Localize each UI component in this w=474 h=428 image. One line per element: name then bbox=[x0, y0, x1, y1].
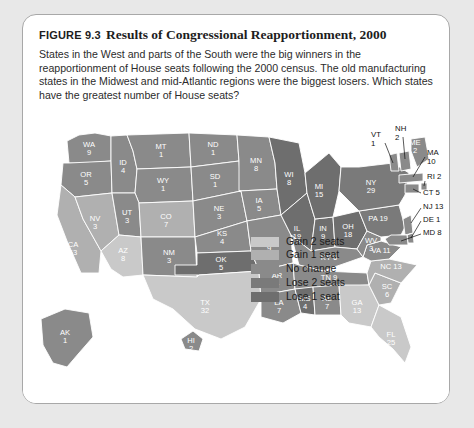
state-label-pa: PA 19 bbox=[368, 214, 388, 223]
figure-title: Results of Congressional Reapportionment… bbox=[106, 27, 387, 42]
page-title: FIGURE 9.3Results of Congressional Reapp… bbox=[39, 27, 433, 43]
state-label-hi: HI2 bbox=[187, 336, 195, 353]
figure-header: FIGURE 9.3Results of Congressional Reapp… bbox=[23, 15, 449, 102]
legend-label: Lose 1 seat bbox=[286, 292, 340, 302]
leader-line-vt bbox=[385, 143, 393, 163]
state-seats: 4 bbox=[220, 237, 224, 246]
state-label-va: VA 11 bbox=[371, 246, 390, 255]
legend-label: No change bbox=[286, 264, 336, 274]
state-seats: 8 bbox=[287, 178, 291, 187]
state-seats: 9 bbox=[87, 148, 91, 157]
state-nj bbox=[403, 215, 413, 235]
callout-label-nj: NJ 13 bbox=[423, 202, 443, 211]
legend-swatch bbox=[251, 250, 279, 260]
state-nh bbox=[399, 151, 411, 171]
legend-swatch bbox=[251, 292, 279, 302]
leader-line-nj bbox=[411, 208, 421, 223]
state-seats: 2 bbox=[413, 146, 417, 155]
legend-label: Gain 1 seat bbox=[286, 250, 339, 260]
state-seats: 1 bbox=[161, 184, 165, 193]
state-seats: 3 bbox=[125, 216, 129, 225]
state-seats: 5 bbox=[257, 204, 261, 213]
legend-swatch bbox=[251, 264, 279, 274]
state-ct bbox=[405, 184, 419, 193]
callout-label-ma: MA10 bbox=[427, 148, 439, 166]
callout-label-md: MD 8 bbox=[423, 228, 442, 237]
figure-caption: States in the West and parts of the Sout… bbox=[39, 48, 435, 102]
state-seats: 1 bbox=[63, 336, 67, 345]
map-legend: Gain 2 seatsGain 1 seatNo changeLose 2 s… bbox=[251, 235, 345, 304]
callout-label-de: DE 1 bbox=[423, 215, 440, 224]
state-code: NH bbox=[395, 124, 406, 133]
state-seats: 4 bbox=[121, 166, 125, 175]
state-seats: 2 bbox=[189, 344, 193, 353]
state-seats: 1 bbox=[371, 139, 375, 148]
state-seats: 6 bbox=[385, 290, 389, 299]
state-vt bbox=[389, 153, 399, 171]
legend-label: Lose 2 seats bbox=[286, 278, 345, 288]
state-seats: 3 bbox=[217, 212, 221, 221]
state-label-mi: MI15 bbox=[315, 182, 323, 199]
state-seats: 32 bbox=[201, 306, 209, 315]
state-seats: 1 bbox=[159, 150, 163, 159]
state-seats: 5 bbox=[84, 178, 88, 187]
state-seats: 15 bbox=[315, 190, 323, 199]
state-label-tx: TX32 bbox=[200, 298, 210, 315]
figure-number: FIGURE 9.3 bbox=[39, 29, 101, 41]
legend-item: Gain 2 seats bbox=[251, 235, 345, 248]
state-seats: 3 bbox=[93, 222, 97, 231]
state-seats: 5 bbox=[219, 263, 223, 272]
state-label-ny: NY29 bbox=[366, 178, 377, 195]
state-ma bbox=[399, 173, 423, 183]
state-seats: 29 bbox=[367, 186, 375, 195]
callout-label-nh: NH2 bbox=[395, 124, 406, 142]
state-code: MA bbox=[427, 148, 439, 157]
callout-label-ct: CT 5 bbox=[423, 188, 440, 197]
state-seats: 7 bbox=[164, 220, 168, 229]
legend-item: Lose 1 seat bbox=[251, 290, 345, 303]
callout-label-ri: RI 2 bbox=[427, 172, 441, 181]
legend-item: No change bbox=[251, 263, 345, 276]
state-seats: 18 bbox=[344, 230, 352, 239]
us-map: WA9OR5ID4MT1WY1NV3UT3CA53AZ8CO7NM3ND1SD1… bbox=[23, 123, 450, 404]
legend-swatch bbox=[251, 237, 279, 247]
state-seats: 3 bbox=[167, 256, 171, 265]
state-label-nc: NC 13 bbox=[380, 262, 402, 271]
state-seats: 25 bbox=[387, 338, 395, 347]
state-seats: 53 bbox=[69, 248, 77, 257]
state-seats: 8 bbox=[121, 254, 125, 263]
callout-label-vt: VT1 bbox=[371, 130, 381, 148]
state-seats: 13 bbox=[353, 306, 361, 315]
state-seats: 3 bbox=[369, 244, 373, 253]
state-code: VT bbox=[371, 130, 381, 139]
state-seats: 10 bbox=[427, 157, 436, 166]
state-seats: 8 bbox=[254, 164, 258, 173]
map-svg: WA9OR5ID4MT1WY1NV3UT3CA53AZ8CO7NM3ND1SD1… bbox=[23, 123, 450, 404]
state-label-fl: FL25 bbox=[387, 330, 396, 347]
state-seats: 1 bbox=[213, 180, 217, 189]
state-seats: 7 bbox=[277, 306, 281, 315]
figure-card: FIGURE 9.3Results of Congressional Reapp… bbox=[22, 14, 450, 404]
legend-item: Lose 2 seats bbox=[251, 276, 345, 289]
legend-label: Gain 2 seats bbox=[286, 237, 344, 247]
legend-item: Gain 1 seat bbox=[251, 249, 345, 262]
state-seats: 2 bbox=[395, 133, 399, 142]
legend-swatch bbox=[251, 278, 279, 288]
state-seats: 1 bbox=[211, 148, 215, 157]
